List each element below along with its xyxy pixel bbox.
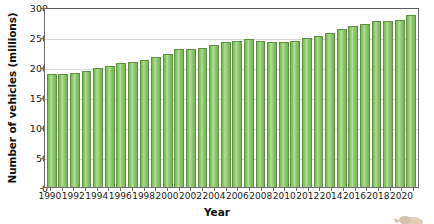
vehicle-registrations-bar-chart: Number of vehicles (millions) 0501001502…: [0, 0, 434, 224]
bar: [186, 49, 196, 187]
bar: [105, 66, 115, 187]
x-axis-tick-label: 1996: [109, 191, 132, 201]
bar: [314, 36, 324, 187]
bar: [128, 62, 138, 187]
bar: [221, 42, 231, 187]
x-axis-tick-label: 2002: [179, 191, 202, 201]
bar: [406, 15, 416, 187]
bar: [290, 41, 300, 187]
bar: [337, 29, 347, 187]
bar: [47, 74, 57, 187]
x-axis-title: Year: [0, 206, 434, 218]
bar: [383, 21, 393, 187]
x-axis-tick-label: 2010: [273, 191, 296, 201]
x-axis-tick-label: 2004: [202, 191, 225, 201]
x-axis-tick-label: 2016: [343, 191, 366, 201]
bar: [302, 38, 312, 187]
x-axis-tick-label: 2008: [249, 191, 272, 201]
x-axis-tick-label: 2018: [367, 191, 390, 201]
bar: [140, 60, 150, 187]
bar: [232, 41, 242, 187]
x-axis-tick-label: 1998: [132, 191, 155, 201]
bar: [58, 74, 68, 187]
x-axis-tick-label: 2014: [320, 191, 343, 201]
bar: [209, 45, 219, 187]
bar: [325, 33, 335, 187]
bar: [174, 49, 184, 187]
plot-area: [44, 8, 419, 188]
bar: [256, 41, 266, 187]
x-axis-tick-label: 1990: [38, 191, 61, 201]
x-axis-tick-label: 2000: [156, 191, 179, 201]
bar: [372, 21, 382, 187]
bar: [244, 39, 254, 187]
bar: [82, 71, 92, 187]
bar: [163, 54, 173, 187]
bar: [395, 20, 405, 187]
bar: [116, 63, 126, 187]
bar: [360, 24, 370, 187]
x-axis-tick-label: 1992: [62, 191, 85, 201]
bar: [70, 73, 80, 187]
x-axis-tick-mark: [413, 188, 414, 191]
bar: [151, 57, 161, 187]
bar: [279, 42, 289, 187]
bar: [267, 42, 277, 187]
x-axis-tick-label: 2006: [226, 191, 249, 201]
decorative-corner-graphic: [390, 208, 430, 224]
bar-series: [45, 9, 418, 187]
bar: [348, 26, 358, 187]
x-axis-tick-label: 1994: [85, 191, 108, 201]
x-axis-tick-label: 2012: [296, 191, 319, 201]
x-axis-tick-labels: 1990199219941996199820002002200420062008…: [44, 189, 419, 205]
bar: [198, 48, 208, 187]
x-axis-tick-label: 2020: [390, 191, 413, 201]
bar: [93, 68, 103, 187]
